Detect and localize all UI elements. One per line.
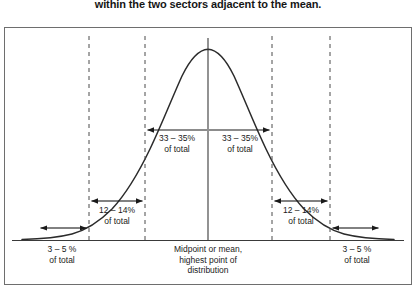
- label-mid-left: 12 – 14% of total: [89, 205, 145, 226]
- label-midpoint-line3: distribution: [148, 265, 268, 276]
- label-center-left: 33 – 35% of total: [147, 133, 207, 154]
- label-center-right: 33 – 35% of total: [210, 133, 270, 154]
- label-midpoint-line1: Midpoint or mean,: [148, 244, 268, 255]
- label-center-right-sub: of total: [210, 144, 270, 155]
- label-outer-right: 3 – 5 % of total: [327, 244, 387, 265]
- label-outer-left: 3 – 5 % of total: [32, 244, 92, 265]
- label-mid-left-pct: 12 – 14%: [89, 205, 145, 216]
- label-mid-left-sub: of total: [89, 216, 145, 227]
- label-outer-right-sub: of total: [327, 255, 387, 266]
- label-midpoint: Midpoint or mean, highest point of distr…: [148, 244, 268, 276]
- label-mid-right: 12 – 14% of total: [273, 205, 329, 226]
- label-outer-left-pct: 3 – 5 %: [32, 244, 92, 255]
- label-mid-right-pct: 12 – 14%: [273, 205, 329, 216]
- label-center-left-sub: of total: [147, 144, 207, 155]
- label-mid-right-sub: of total: [273, 216, 329, 227]
- label-outer-left-sub: of total: [32, 255, 92, 266]
- label-center-right-pct: 33 – 35%: [210, 133, 270, 144]
- label-center-left-pct: 33 – 35%: [147, 133, 207, 144]
- label-outer-right-pct: 3 – 5 %: [327, 244, 387, 255]
- label-midpoint-line2: highest point of: [148, 255, 268, 266]
